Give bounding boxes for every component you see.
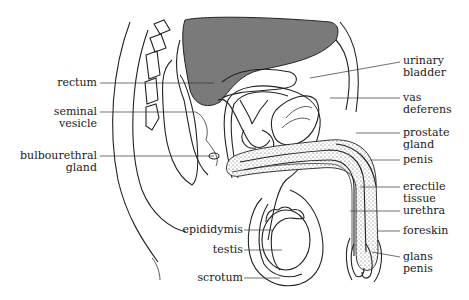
label-vas-deferens: vas deferens [403, 92, 452, 116]
label-epididymis: epididymis [183, 224, 243, 236]
buttock-inner [133, 30, 186, 232]
label-penis: penis [403, 154, 433, 166]
label-glans-penis: glans penis [403, 251, 433, 275]
label-erectile-tissue: erectile tissue [403, 181, 445, 205]
male-reproductive-diagram: rectum seminal vesicle bulbourethral gla… [0, 0, 469, 300]
label-seminal-vesicle: seminal vesicle [54, 106, 97, 130]
urethra [232, 163, 352, 250]
label-prostate-gland: prostate gland [403, 127, 449, 151]
label-rectum: rectum [57, 77, 97, 89]
prostate-gland [271, 96, 318, 145]
label-scrotum: scrotum [197, 272, 243, 284]
body-outline [113, 22, 158, 262]
label-bulbourethral-gland: bulbourethral gland [20, 150, 97, 174]
label-foreskin: foreskin [403, 225, 448, 237]
label-testis: testis [213, 244, 243, 256]
label-urinary-bladder: urinary bladder [403, 55, 446, 79]
label-urethra: urethra [403, 205, 445, 217]
coccyx [145, 20, 170, 130]
